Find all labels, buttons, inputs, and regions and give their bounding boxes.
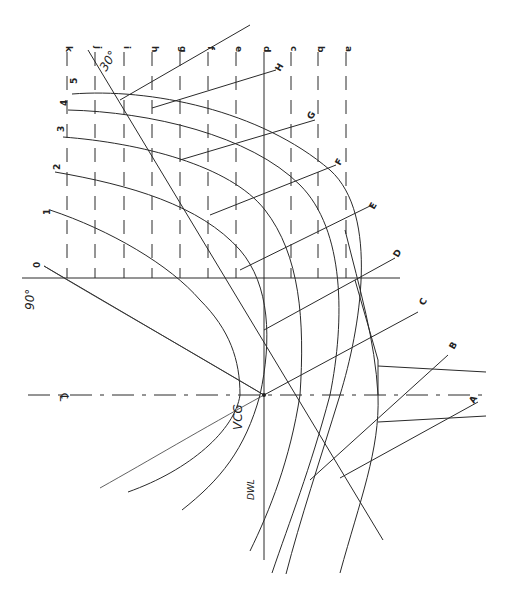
station-lines	[120, 25, 478, 480]
keel-line-lower	[378, 416, 486, 422]
waterline-labels: 0 1 2 3 4 5	[32, 78, 79, 268]
diagram-canvas: k j i h g f e d c b a ℄ 30° 90° 0 1 2	[0, 0, 508, 595]
station-E: E	[367, 201, 379, 211]
waterline-5: 5	[69, 78, 79, 84]
station-C: C	[417, 296, 429, 307]
station-G: G	[305, 110, 317, 121]
station-B: B	[447, 340, 459, 351]
waterline-3: 3	[56, 126, 66, 132]
label-d: d	[262, 46, 272, 52]
waterline-2: 2	[52, 164, 62, 170]
station-D: D	[391, 248, 403, 259]
vcg-point	[262, 393, 266, 397]
centerline-symbol: ℄	[57, 392, 71, 403]
label-e: e	[234, 46, 244, 52]
label-j: j	[93, 45, 103, 49]
label-k: k	[64, 46, 74, 53]
label-h: h	[150, 46, 160, 52]
section-curves	[44, 93, 361, 574]
waterline-4: 4	[59, 100, 69, 106]
keel-line-upper	[378, 366, 486, 372]
label-i: i	[122, 46, 132, 49]
label-c: c	[289, 46, 299, 51]
waterline-0: 0	[32, 262, 42, 268]
vertical-dashed-lines	[67, 52, 346, 560]
label-b: b	[316, 46, 326, 53]
station-H: H	[273, 61, 285, 73]
station-A: A	[467, 394, 479, 405]
label-dwl: DWL	[246, 479, 256, 500]
label-g: g	[178, 46, 188, 52]
label-vcg: VCG	[231, 404, 245, 430]
label-90-deg: 90°	[23, 289, 37, 310]
label-a: a	[344, 46, 354, 52]
hull-outline-inner	[355, 280, 378, 395]
